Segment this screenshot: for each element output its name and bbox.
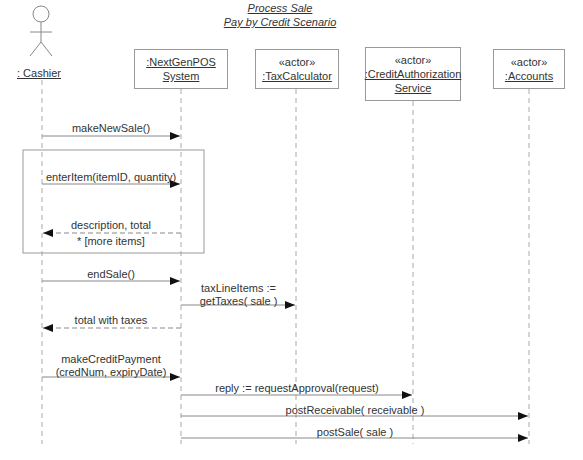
message-label-postSale: postSale( sale ) bbox=[181, 426, 529, 439]
participant-accounts-box: «actor» :Accounts bbox=[493, 49, 565, 89]
message-label-endSale: endSale() bbox=[42, 268, 180, 281]
message-label-enterItem: enterItem(itemID, quantity) bbox=[38, 171, 184, 184]
message-label-getTaxes-line1: taxLineItems := bbox=[181, 282, 296, 295]
loop-guard-label: * [more items] bbox=[42, 235, 180, 248]
message-label-makeNewSale: makeNewSale() bbox=[42, 122, 180, 135]
message-label-makeCreditPayment-line1: makeCreditPayment bbox=[42, 353, 180, 366]
participant-pos-name-line2: System bbox=[163, 69, 200, 83]
participant-accounts-stereotype: «actor» bbox=[511, 55, 548, 69]
actor-figure-icon bbox=[30, 6, 52, 56]
participant-pos-box: :NextGenPOS System bbox=[134, 49, 228, 89]
participant-tax-box: «actor» :TaxCalculator bbox=[255, 49, 339, 89]
return-label-description-total: description, total bbox=[42, 219, 180, 232]
participant-credit-name-line2: Service bbox=[395, 81, 432, 95]
message-label-postReceivable: postReceivable( receivable ) bbox=[181, 404, 529, 417]
participant-credit-name-line1: :CreditAuthorization bbox=[365, 67, 462, 81]
participant-credit-box: «actor» :CreditAuthorization Service bbox=[365, 47, 461, 101]
participant-credit-stereotype: «actor» bbox=[395, 53, 432, 67]
participant-accounts-name: :Accounts bbox=[505, 69, 553, 83]
return-label-total-with-taxes: total with taxes bbox=[42, 314, 180, 327]
message-label-requestApproval: reply := requestApproval(request) bbox=[181, 382, 413, 395]
participant-pos-name-line1: :NextGenPOS bbox=[146, 55, 216, 69]
participant-tax-name: :TaxCalculator bbox=[262, 69, 332, 83]
message-label-getTaxes-line2: getTaxes( sale ) bbox=[181, 295, 296, 308]
participant-cashier-label: : Cashier bbox=[17, 67, 61, 79]
participant-tax-stereotype: «actor» bbox=[279, 55, 316, 69]
message-label-makeCreditPayment-line2: (credNum, expiryDate) bbox=[42, 366, 180, 379]
